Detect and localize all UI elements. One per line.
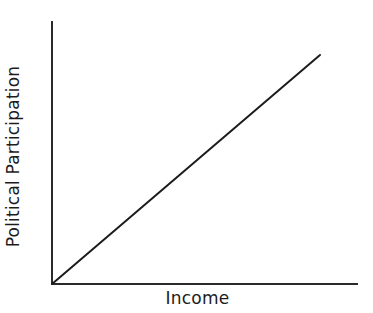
x-axis-label: Income — [0, 288, 373, 308]
y-axis-label: Political Participation — [14, 0, 42, 313]
chart-figure: Political Participation Income — [0, 0, 373, 313]
x-axis-label-text: Income — [166, 288, 230, 308]
chart-plot-area — [0, 0, 373, 313]
y-axis-label-text: Political Participation — [0, 66, 27, 248]
plot-background — [0, 0, 373, 313]
